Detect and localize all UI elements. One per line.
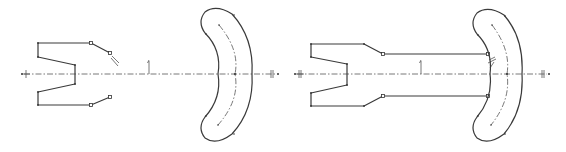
centerline-start-marker-icon: [294, 70, 304, 78]
left-sketch: [21, 8, 279, 141]
right-sketch: [294, 9, 550, 141]
sketch-point[interactable]: [90, 104, 93, 107]
fork-profile: [311, 44, 383, 106]
parallel-constraint-icon: [488, 57, 496, 68]
sketch-point[interactable]: [109, 96, 112, 99]
centerline-start-marker-icon: [21, 70, 30, 78]
parallel-constraint-icon: [111, 56, 119, 66]
arc-slot-centerline: [491, 25, 508, 125]
arc-slot-centerline: [218, 25, 236, 125]
direction-arrow-icon: [148, 60, 150, 74]
arc-slot-outline: [473, 9, 522, 141]
arc-slot-outline: [201, 8, 252, 141]
sketch-point[interactable]: [90, 42, 93, 45]
sketch-point[interactable]: [109, 52, 112, 55]
direction-arrow-icon: [420, 60, 422, 74]
sketch-canvas: [0, 0, 566, 152]
sketch-point[interactable]: [382, 95, 385, 98]
sketch-point[interactable]: [382, 53, 385, 56]
